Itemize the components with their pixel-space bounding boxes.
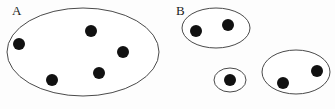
diagram-canvas: A B (0, 0, 335, 109)
cluster-b2 (214, 68, 246, 92)
data-point (117, 46, 129, 58)
data-point (224, 74, 236, 86)
cluster-b1 (182, 8, 250, 48)
data-point (311, 65, 323, 77)
data-point (85, 25, 97, 37)
data-point (222, 19, 234, 31)
group-a: A (7, 3, 159, 96)
data-point (13, 38, 25, 50)
data-point (46, 74, 58, 86)
data-point (93, 67, 105, 79)
cluster-a1-outline (7, 8, 159, 96)
group-b: B (176, 3, 330, 94)
group-b-label: B (176, 3, 185, 18)
data-point (190, 25, 202, 37)
cluster-a1 (7, 8, 159, 96)
data-point (277, 77, 289, 89)
cluster-b3 (262, 50, 330, 94)
clustering-diagram: A B (0, 0, 335, 109)
group-a-label: A (12, 3, 22, 18)
